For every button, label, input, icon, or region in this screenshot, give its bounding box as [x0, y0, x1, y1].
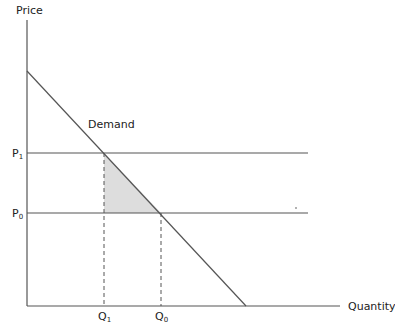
- p1-label: P1: [12, 147, 23, 161]
- demand-label: Demand: [88, 118, 135, 131]
- p0-label: P0: [12, 207, 23, 221]
- y-axis-label: Price: [16, 4, 43, 17]
- demand-diagram: Price Quantity Demand P1 P0 Q1 Q0: [0, 0, 395, 330]
- stray-dot: [295, 207, 297, 209]
- x-axis-label: Quantity: [348, 300, 395, 313]
- demand-curve: [27, 71, 246, 306]
- q1-label: Q1: [98, 310, 111, 324]
- q0-label: Q0: [155, 310, 168, 324]
